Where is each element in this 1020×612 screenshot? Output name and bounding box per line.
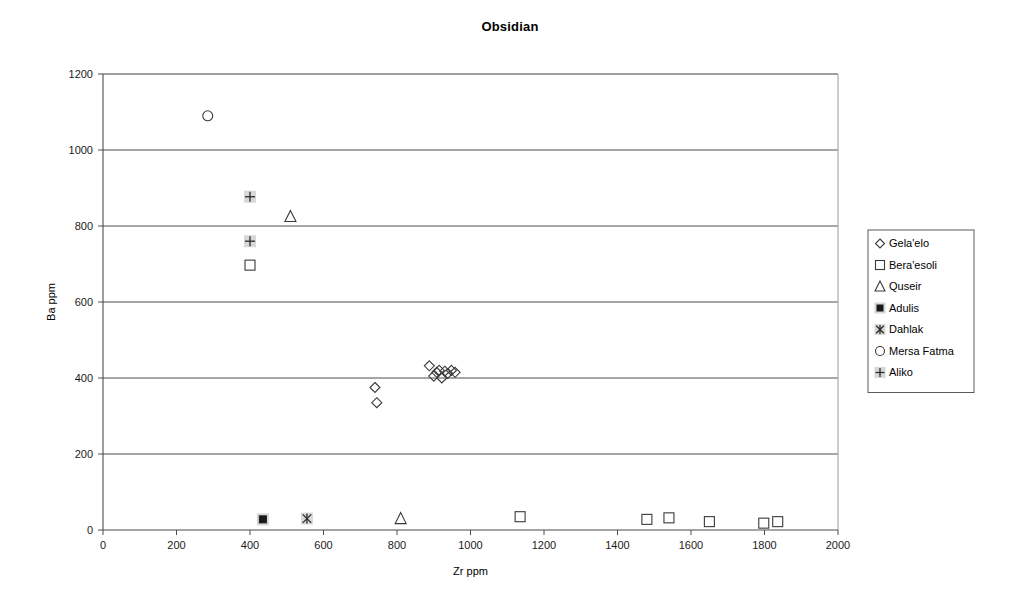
x-tick-label-1400: 1400 xyxy=(605,539,629,551)
data-point xyxy=(642,514,652,524)
x-axis-title: Zr ppm xyxy=(453,565,488,577)
marker-square xyxy=(773,517,783,527)
y-tick-label-800: 800 xyxy=(75,220,93,232)
series-quseir xyxy=(285,211,406,524)
data-point xyxy=(257,513,269,525)
data-point xyxy=(301,513,313,525)
scatter-plot: 0200400600800100012000200400600800100012… xyxy=(0,0,1020,612)
series-dahlak xyxy=(301,513,313,525)
y-tick-label-1000: 1000 xyxy=(69,144,93,156)
series-bera-esoli xyxy=(245,260,783,528)
x-tick-label-400: 400 xyxy=(241,539,259,551)
marker-square-filled xyxy=(877,305,883,311)
x-tick-label-2000: 2000 xyxy=(826,539,850,551)
y-tick-label-1200: 1200 xyxy=(69,68,93,80)
x-tick-label-1800: 1800 xyxy=(752,539,776,551)
y-axis-title: Ba ppm xyxy=(45,283,57,321)
y-tick-label-0: 0 xyxy=(87,524,93,536)
data-point xyxy=(515,512,525,522)
legend-label: Bera'esoli xyxy=(889,259,937,271)
data-point xyxy=(244,191,256,203)
legend-label: Adulis xyxy=(889,302,919,314)
data-point xyxy=(424,361,434,371)
marker-square xyxy=(664,513,674,523)
series-aliko xyxy=(244,191,256,247)
marker-square xyxy=(704,517,714,527)
data-point xyxy=(244,235,256,247)
y-tick-label-600: 600 xyxy=(75,296,93,308)
legend-item-bera-esoli[interactable]: Bera'esoli xyxy=(876,259,937,271)
x-tick-label-200: 200 xyxy=(167,539,185,551)
marker-triangle xyxy=(395,513,406,524)
legend-item-adulis[interactable]: Adulis xyxy=(875,302,920,314)
legend-label: Dahlak xyxy=(889,323,924,335)
x-tick-label-0: 0 xyxy=(100,539,106,551)
marker-diamond xyxy=(370,383,380,393)
marker-square xyxy=(642,514,652,524)
data-point xyxy=(372,398,382,408)
data-point xyxy=(370,383,380,393)
legend-item-dahlak[interactable]: Dahlak xyxy=(875,323,924,335)
legend-label: Mersa Fatma xyxy=(889,345,955,357)
legend-label: Aliko xyxy=(889,366,913,378)
x-tick-label-1600: 1600 xyxy=(679,539,703,551)
series-adulis xyxy=(257,513,269,525)
data-point xyxy=(245,260,255,270)
x-tick-label-800: 800 xyxy=(388,539,406,551)
marker-diamond xyxy=(372,398,382,408)
x-tick-label-600: 600 xyxy=(314,539,332,551)
x-tick-label-1000: 1000 xyxy=(458,539,482,551)
data-point xyxy=(664,513,674,523)
chart-container: Obsidian 0200400600800100012000200400600… xyxy=(0,0,1020,612)
marker-square xyxy=(245,260,255,270)
y-tick-label-400: 400 xyxy=(75,372,93,384)
y-tick-label-200: 200 xyxy=(75,448,93,460)
marker-triangle xyxy=(285,211,296,222)
data-point xyxy=(395,513,406,524)
legend-label: Quseir xyxy=(889,280,922,292)
data-point xyxy=(203,111,213,121)
data-point xyxy=(285,211,296,222)
marker-square xyxy=(515,512,525,522)
marker-square-filled xyxy=(259,516,266,523)
x-tick-label-1200: 1200 xyxy=(532,539,556,551)
data-point xyxy=(773,517,783,527)
data-point xyxy=(704,517,714,527)
series-mersa-fatma xyxy=(203,111,213,121)
legend-item-aliko[interactable]: Aliko xyxy=(875,366,913,378)
legend-label: Gela'elo xyxy=(889,237,929,249)
data-point xyxy=(759,518,769,528)
marker-diamond xyxy=(424,361,434,371)
marker-square xyxy=(759,518,769,528)
marker-circle xyxy=(203,111,213,121)
series-gela-elo xyxy=(370,361,460,408)
